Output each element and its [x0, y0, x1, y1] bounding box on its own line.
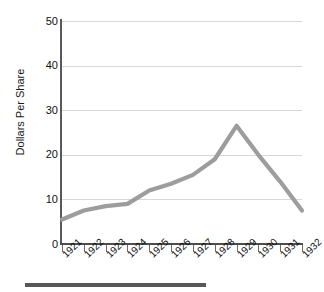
y-axis-tick-label: 20: [32, 149, 58, 160]
plot-area: [62, 21, 302, 244]
y-axis-line: [60, 19, 62, 245]
gridline: [62, 21, 302, 22]
chart-figure: Dollars Per Share 01020304050 1921192219…: [0, 0, 324, 292]
y-axis-tick-label: 50: [32, 16, 58, 27]
y-axis-tick-labels: 01020304050: [32, 0, 58, 292]
gridline: [62, 199, 302, 200]
y-axis-tick-label: 30: [32, 105, 58, 116]
gridline: [62, 110, 302, 111]
x-axis-tick-label: 1932: [300, 236, 324, 260]
y-axis-title: Dollars Per Share: [14, 59, 26, 165]
y-axis-tick-label: 10: [32, 194, 58, 205]
footer-rule: [25, 283, 206, 287]
gridline: [62, 66, 302, 67]
y-axis-tick-label: 40: [32, 60, 58, 71]
y-axis-tick-label: 0: [32, 239, 58, 250]
gridline: [62, 155, 302, 156]
